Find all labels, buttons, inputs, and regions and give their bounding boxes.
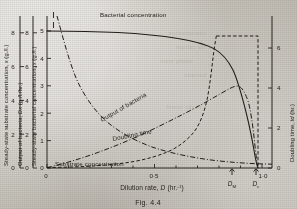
ticklabel-substrate-8: 8 [11, 29, 15, 36]
ticklabels-x: 0 0·5 1·0 [44, 172, 268, 179]
ticklabel-x-0: 0 [44, 172, 48, 179]
ticklabel-output-6: 6 [25, 63, 29, 70]
ticklabel-substrate-4: 4 [11, 97, 15, 104]
ticklabel-substrate-0: 0 [11, 164, 15, 171]
chemostat-chart: 0 2 4 6 8 Steady-state substrate concent… [0, 0, 297, 209]
ticklabel-doubling-4: 4 [277, 84, 281, 91]
ticks-doubling [268, 48, 272, 168]
annotation-Dc-sub: c [257, 184, 260, 189]
ticklabel-bacterial-2: 2 [40, 110, 44, 117]
ticklabel-substrate-2: 2 [11, 131, 15, 138]
axis-label-bacterial: Steady-state bacterial concentration,x(g… [31, 47, 37, 167]
ticklabel-substrate-6: 6 [11, 63, 15, 70]
ticklabel-bacterial-5: 5 [40, 27, 44, 34]
ticklabel-doubling-6: 6 [277, 44, 281, 51]
ticklabel-bacterial-4: 4 [40, 55, 44, 62]
ticklabels-substrate: 0 2 4 6 8 [11, 29, 15, 171]
ticklabel-x-10: 1·0 [259, 172, 269, 179]
ticklabels-bacterial: 0 1 2 3 4 5 [40, 27, 44, 171]
svg-text:DM: DM [228, 180, 237, 189]
ticklabels-output: 0 2 4 6 8 [25, 29, 29, 171]
ticks-bacterial [47, 31, 51, 168]
annotation-Dm: DM [228, 169, 237, 189]
curve-label-output-of-bacteria: Output of bacteria [99, 91, 148, 123]
ticklabel-output-8: 8 [25, 29, 29, 36]
ticklabels-doubling: 0 2 4 6 [277, 44, 281, 171]
axis-label-substrate: Steady-state substrate concentration,s(g… [3, 45, 9, 166]
figure-caption: Fig. 4.4 [135, 199, 161, 207]
ticklabel-bacterial-0: 0 [40, 164, 44, 171]
axis-label-x: Dilution rate, D (hr.-1) [120, 184, 184, 192]
ticklabel-doubling-2: 2 [277, 124, 281, 131]
curve-label-bacterial-concentration: Bacterial concentration [100, 11, 167, 18]
ticklabel-x-05: 0·5 [150, 172, 160, 179]
curve-label-substrate-concentration: Substrate concentration [55, 160, 124, 167]
ticklabel-output-4: 4 [25, 97, 29, 104]
figure-container: concentration of the culture steady stat… [0, 0, 297, 209]
ticklabel-output-2: 2 [25, 131, 29, 138]
curve-output-of-bacteria [47, 86, 258, 168]
axis-label-doubling: Doubling time,td(hr.) [289, 104, 295, 162]
ticklabel-bacterial-1: 1 [40, 137, 44, 144]
ticklabel-doubling-0: 0 [277, 164, 281, 171]
annotation-Dm-sub: M [232, 184, 236, 189]
svg-text:Dc: Dc [253, 180, 261, 189]
ticklabel-bacterial-3: 3 [40, 82, 44, 89]
axis-label-output: Output of bacteria,Dx(g./l./hr.) [17, 83, 23, 167]
ticklabel-output-0: 0 [25, 164, 29, 171]
